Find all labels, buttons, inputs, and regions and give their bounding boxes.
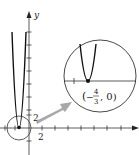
svg-text:4: 4	[94, 88, 99, 96]
magnify-arrow-icon	[36, 102, 72, 124]
y-axis	[27, 11, 32, 155]
graph-figure: y 2 2 ( − 4 3 , 0)	[0, 0, 139, 155]
vertex-point	[17, 126, 21, 130]
parabola-curve	[12, 32, 26, 128]
x-axis-arrow-icon	[132, 126, 139, 131]
y-axis-arrow-icon	[27, 11, 32, 18]
y-axis-label: y	[33, 10, 40, 20]
svg-text:3: 3	[94, 98, 98, 106]
x-axis	[0, 126, 139, 131]
inset-vertex-point	[86, 79, 90, 83]
svg-text:−: −	[86, 92, 94, 102]
svg-text:, 0): , 0)	[100, 91, 117, 102]
x-tick-label: 2	[38, 132, 44, 142]
